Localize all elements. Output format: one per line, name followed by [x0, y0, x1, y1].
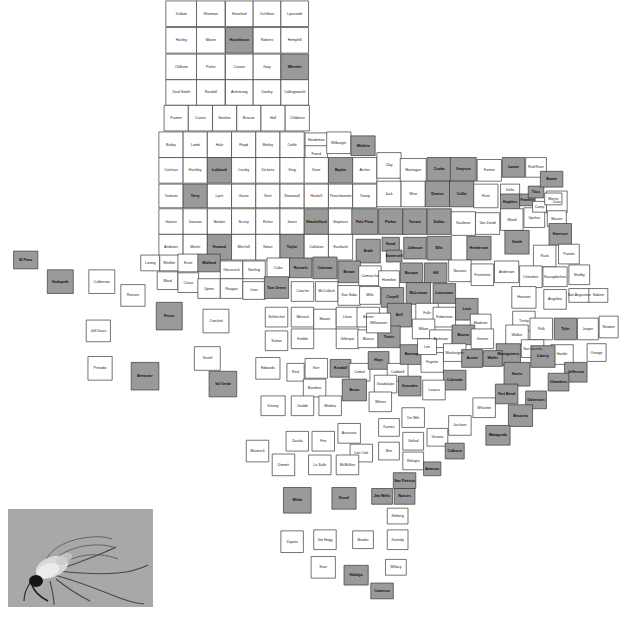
- county-guadalupe: [374, 375, 396, 393]
- county-hartley: [166, 28, 197, 54]
- county-la-salle: [309, 455, 331, 475]
- county-lubbock: [207, 158, 231, 184]
- county-tom-green: [264, 277, 288, 299]
- county-bandera: [303, 379, 325, 397]
- county-gray: [253, 54, 281, 80]
- county-hamilton: [379, 271, 400, 289]
- county-ellis: [427, 236, 451, 260]
- county-wheeler: [281, 54, 309, 80]
- county-san-saba: [338, 286, 360, 306]
- county-morris: [545, 193, 562, 205]
- county-brazoria: [508, 405, 532, 427]
- county-armstrong: [226, 80, 254, 106]
- county-culberson: [89, 270, 115, 294]
- county-austin: [462, 350, 483, 368]
- county-ector: [178, 254, 199, 272]
- county-llano: [336, 307, 358, 327]
- county-hutchinson: [226, 28, 254, 54]
- county-jones: [280, 209, 304, 235]
- county-nueces: [394, 489, 415, 505]
- county-menard: [291, 307, 313, 327]
- county-karnes: [379, 419, 400, 437]
- county-freestone: [471, 264, 493, 286]
- county-lamb: [183, 132, 207, 158]
- county-harris: [504, 362, 530, 386]
- county-zavala: [286, 431, 308, 451]
- county-moore: [197, 28, 226, 54]
- county-garza: [232, 184, 256, 208]
- county-coleman: [313, 257, 337, 279]
- county-yoakum: [159, 184, 183, 208]
- county-zapata: [281, 531, 303, 553]
- county-hudspeth: [47, 270, 73, 294]
- county-robertson: [433, 307, 455, 327]
- county-taylor: [280, 234, 304, 260]
- county-bosque: [400, 263, 422, 283]
- county-schleicher: [265, 307, 287, 327]
- county-bailey: [159, 132, 183, 158]
- county-kendall: [330, 359, 351, 377]
- county-eastland: [328, 234, 352, 260]
- county-cooke: [427, 158, 451, 182]
- county-uvalde: [291, 396, 313, 416]
- county-somervell: [386, 250, 402, 262]
- county-kerr: [305, 358, 327, 378]
- county-callahan: [304, 234, 328, 260]
- county-hansford: [226, 1, 254, 27]
- county-upton: [198, 279, 220, 299]
- mosquito-photo-inset: [8, 509, 153, 607]
- county-limestone: [433, 284, 455, 304]
- county-irion: [243, 282, 265, 300]
- county-wharton: [473, 398, 495, 418]
- county-stonewall: [280, 184, 304, 208]
- county-angelina: [544, 290, 566, 310]
- county-reagan: [220, 279, 242, 299]
- county-carson: [226, 54, 254, 80]
- county-borden: [207, 209, 231, 235]
- county-dickens: [256, 158, 280, 184]
- county-castro: [188, 105, 212, 131]
- county-winkler: [160, 255, 179, 271]
- county-ochiltree: [253, 1, 281, 27]
- county-mclennan: [406, 283, 430, 305]
- county-dawson: [183, 209, 207, 235]
- county-jasper: [578, 318, 599, 340]
- county-kimble: [291, 329, 313, 349]
- county-collin: [450, 181, 474, 207]
- county-lynn: [207, 184, 231, 208]
- county-kaufman: [451, 212, 475, 236]
- county-archer: [353, 158, 377, 184]
- county-san-patricio: [393, 473, 415, 489]
- county-colorado: [443, 370, 465, 390]
- county-coke: [267, 258, 289, 278]
- county-mcmullen: [336, 455, 358, 475]
- county-palo-pinto: [352, 209, 378, 235]
- county-wood: [501, 209, 523, 231]
- county-jeff-davis: [86, 320, 110, 342]
- county-gaines: [159, 209, 183, 235]
- county-ward: [157, 272, 178, 290]
- county-glasscock: [220, 261, 242, 279]
- county-grimes: [471, 329, 493, 349]
- county-hall: [261, 105, 285, 131]
- county-crosby: [232, 158, 256, 184]
- county-comal: [349, 363, 370, 381]
- county-gillespie: [336, 329, 358, 349]
- county-hockley: [183, 158, 207, 184]
- county-atascosa: [338, 423, 360, 443]
- county-sterling: [243, 261, 265, 279]
- county-tyler: [554, 318, 576, 340]
- county-aransas: [424, 462, 441, 476]
- county-bee: [379, 442, 400, 460]
- county-childress: [285, 105, 309, 131]
- county-brooks: [353, 531, 374, 549]
- county-jim-wells: [372, 489, 393, 505]
- county-midland: [198, 254, 220, 272]
- county-brown: [338, 261, 360, 283]
- county-kenedy: [387, 530, 408, 550]
- county-kinney: [261, 396, 285, 416]
- county-hill: [424, 263, 446, 283]
- county-panola: [559, 244, 580, 264]
- county-cameron: [371, 583, 393, 599]
- county-harrison: [549, 224, 571, 246]
